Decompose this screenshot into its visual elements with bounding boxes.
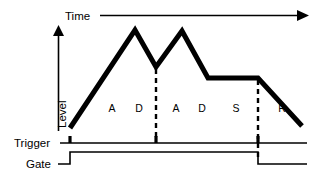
stage-label-a2: A [172, 102, 179, 114]
stage-label-r: R [278, 102, 286, 114]
time-axis-arrowhead [297, 10, 309, 21]
gate-label: Gate [26, 158, 51, 170]
gate-waveform [58, 152, 307, 164]
trigger-signal [60, 136, 307, 143]
time-axis-label: Time [65, 10, 90, 22]
stage-label-a1: A [108, 102, 115, 114]
envelope-curve [70, 30, 302, 128]
envelope-diagram: Time Level Trigger Gate A D A D S R [0, 0, 318, 178]
time-axis [100, 10, 309, 21]
level-axis-arrowhead [53, 25, 64, 36]
level-axis-label: Level [56, 101, 68, 129]
stage-label-d2: D [198, 102, 206, 114]
stage-label-d1: D [135, 102, 143, 114]
stage-label-s: S [232, 102, 239, 114]
trigger-label: Trigger [14, 137, 50, 149]
diagram-canvas: Time Level Trigger Gate A D A D S R [0, 0, 318, 178]
